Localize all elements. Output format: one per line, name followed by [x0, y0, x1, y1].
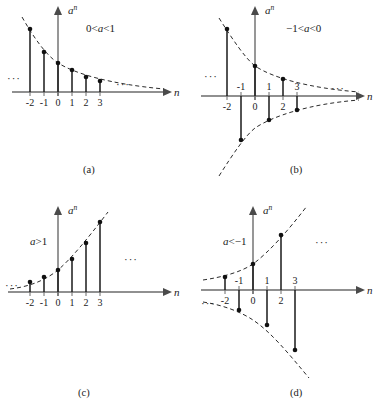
panel-c-caption: (c) — [78, 387, 90, 398]
panel-c-x-axis — [8, 288, 172, 296]
panel-a-tick-labels: -2 -1 0 1 2 3 — [26, 97, 103, 108]
panel-b-y-axis-label: an — [265, 3, 275, 16]
panel-d-condition-label: a<−1 — [223, 235, 246, 247]
panel-d-plot: an n -2 -1 0 1 2 3 — [193, 198, 386, 404]
panel-a-condition-left: 0< — [86, 22, 98, 34]
panel-a-x-axis-label: n — [174, 86, 180, 98]
panel-a-caption: (a) — [83, 164, 95, 175]
panel-d-ellipsis-right: ··· — [315, 236, 329, 248]
panel-d-caption: (d) — [290, 387, 302, 398]
svg-text:-2: -2 — [26, 97, 34, 108]
svg-text:3: 3 — [98, 97, 103, 108]
svg-text:1: 1 — [267, 81, 272, 92]
panel-c-ellipsis-left: ··· — [5, 279, 19, 291]
panel-d-envelope-lower — [203, 302, 309, 378]
panel-a-condition-label: 0<a<1 — [86, 22, 115, 34]
svg-text:-1: -1 — [40, 297, 48, 308]
svg-text:-1: -1 — [237, 81, 245, 92]
panel-b-ellipsis-right: ··· — [331, 82, 345, 94]
svg-text:2: 2 — [84, 297, 89, 308]
panel-c-plot: an n -2 -1 0 1 2 3 — [0, 198, 193, 404]
svg-text:0: 0 — [56, 297, 61, 308]
panel-d: an n -2 -1 0 1 2 3 — [193, 198, 386, 404]
panel-c-envelope-curve — [10, 212, 108, 289]
panel-a: an n -2 -1 0 1 2 3 — [0, 0, 193, 206]
panel-d-stems — [223, 233, 298, 353]
svg-text:1: 1 — [70, 297, 75, 308]
panel-c-ellipsis-right: ··· — [124, 253, 138, 265]
svg-text:3: 3 — [293, 275, 298, 286]
svg-text:3: 3 — [98, 297, 103, 308]
svg-text:-1: -1 — [40, 97, 48, 108]
panel-c-x-axis-label: n — [174, 286, 180, 298]
panel-b-condition-right: <0 — [309, 22, 321, 34]
svg-text:-2: -2 — [26, 297, 34, 308]
panel-c-tick-labels: -2 -1 0 1 2 3 — [26, 297, 103, 308]
svg-text:-2: -2 — [223, 101, 231, 112]
svg-text:-2: -2 — [221, 295, 229, 306]
panel-c-condition-label: a>1 — [30, 235, 47, 247]
panel-b-caption: (b) — [290, 164, 302, 175]
panel-d-condition-right: <−1 — [229, 235, 247, 247]
panel-b: an n -2 -1 0 1 2 3 — [193, 0, 386, 206]
panel-b-ellipsis-left: ··· — [204, 70, 218, 82]
panel-c: an n -2 -1 0 1 2 3 — [0, 198, 193, 404]
svg-text:2: 2 — [279, 295, 284, 306]
panel-a-ellipsis-left: ··· — [7, 72, 21, 84]
figure-root: an n -2 -1 0 1 2 3 — [0, 0, 386, 412]
svg-text:0: 0 — [253, 101, 258, 112]
svg-text:0: 0 — [56, 97, 61, 108]
svg-text:1: 1 — [70, 97, 75, 108]
panel-c-condition-right: >1 — [36, 235, 48, 247]
panel-b-condition-left: −1< — [286, 22, 304, 34]
panel-b-x-axis-label: n — [367, 90, 373, 102]
panel-a-ellipsis-right: ··· — [116, 78, 130, 90]
panel-d-x-axis-label: n — [367, 284, 373, 296]
svg-text:-1: -1 — [235, 275, 243, 286]
svg-text:2: 2 — [84, 97, 89, 108]
panel-a-stems — [28, 27, 103, 92]
panel-a-x-axis — [12, 88, 172, 96]
svg-text:1: 1 — [265, 275, 270, 286]
panel-a-y-axis-label: an — [68, 3, 78, 16]
panel-b-condition-label: −1<a<0 — [286, 22, 321, 34]
panel-a-condition-right: <1 — [103, 22, 115, 34]
panel-d-y-axis-label: an — [263, 203, 273, 216]
panel-d-ellipsis-left: ··· — [201, 297, 215, 309]
svg-text:0: 0 — [251, 295, 256, 306]
svg-text:2: 2 — [281, 101, 286, 112]
panel-c-y-axis-label: an — [68, 203, 78, 216]
panel-d-envelope-upper — [203, 206, 307, 280]
